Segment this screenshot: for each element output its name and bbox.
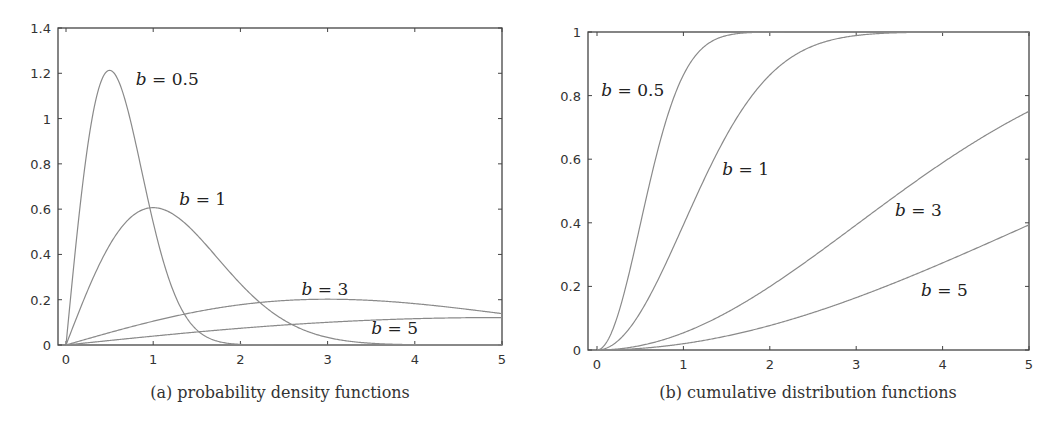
curve-label: b = 5 <box>371 318 418 338</box>
y-tick-label: 0.2 <box>30 293 51 308</box>
pdf-plot-frame <box>58 28 502 345</box>
curve-label: b = 0.5 <box>601 80 664 100</box>
y-tick-label: 0.6 <box>30 202 51 217</box>
curve-label: b = 3 <box>301 279 348 299</box>
y-tick-label: 0.4 <box>30 247 51 262</box>
curve-label: b = 5 <box>921 280 968 300</box>
y-tick-label: 0.8 <box>30 157 51 172</box>
y-tick-label: 0.6 <box>560 152 581 167</box>
x-tick-label: 3 <box>323 352 331 367</box>
x-tick-label: 5 <box>1025 357 1033 372</box>
curve-label: b = 1 <box>722 159 769 179</box>
y-tick-label: 0.2 <box>560 279 581 294</box>
pdf-caption: (a) probability density functions <box>150 383 410 402</box>
y-tick-label: 1.2 <box>30 66 51 81</box>
x-tick-label: 3 <box>852 357 860 372</box>
cdf-curve-labels: b = 0.5b = 1b = 3b = 5 <box>601 80 967 300</box>
x-tick-label: 2 <box>766 357 774 372</box>
y-tick-label: 1 <box>573 25 581 40</box>
x-tick-label: 2 <box>236 352 244 367</box>
curve-label: b = 1 <box>179 189 226 209</box>
x-tick-label: 0 <box>593 357 601 372</box>
curve-label: b = 0.5 <box>136 69 199 89</box>
x-tick-label: 0 <box>62 352 70 367</box>
y-tick-label: 0 <box>43 338 51 353</box>
pdf-axis-ticks: 01234500.20.40.60.811.21.4 <box>30 21 506 367</box>
figure: 01234500.20.40.60.811.21.4 b = 0.5b = 1b… <box>0 0 1062 428</box>
x-tick-label: 1 <box>679 357 687 372</box>
x-tick-label: 5 <box>498 352 506 367</box>
curve-b5 <box>66 318 502 345</box>
cdf-caption: (b) cumulative distribution functions <box>659 383 956 402</box>
y-tick-label: 1 <box>43 112 51 127</box>
curve-b0-5 <box>66 70 502 345</box>
curve-b1 <box>66 208 502 345</box>
y-tick-label: 0.8 <box>560 89 581 104</box>
pdf-chart: 01234500.20.40.60.811.21.4 b = 0.5b = 1b… <box>30 21 506 402</box>
curve-b3 <box>597 111 1029 350</box>
pdf-curve-labels: b = 0.5b = 1b = 3b = 5 <box>136 69 418 338</box>
x-tick-label: 4 <box>938 357 946 372</box>
curve-label: b = 3 <box>895 200 942 220</box>
x-tick-label: 4 <box>411 352 419 367</box>
pdf-curves <box>66 70 502 345</box>
y-tick-label: 1.4 <box>30 21 51 36</box>
cdf-chart: 01234500.20.40.60.81 b = 0.5b = 1b = 3b … <box>560 25 1033 402</box>
cdf-axis-ticks: 01234500.20.40.60.81 <box>560 25 1033 372</box>
x-tick-label: 1 <box>149 352 157 367</box>
y-tick-label: 0 <box>573 343 581 358</box>
y-tick-label: 0.4 <box>560 216 581 231</box>
